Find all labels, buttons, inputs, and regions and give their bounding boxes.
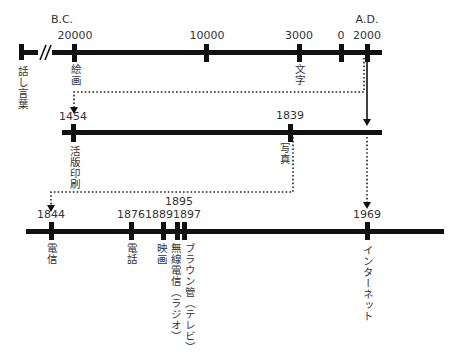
timeline-bar [62,130,382,135]
arrow-down-icon [363,119,371,126]
year-label: 0 [338,30,345,42]
year-label: 1895 [165,196,193,208]
event-label-printing-press: 活版印刷 [69,146,80,190]
tick-1454 [71,124,76,142]
tick-3000 [297,44,302,62]
tick-speech [19,44,24,60]
tick-1844 [49,222,54,240]
tick-10000 [204,44,209,62]
event-label-speech: 話し言葉 [17,66,28,110]
event-label-photography: 写真 [279,143,290,165]
event-label-telegraph: 電信 [46,243,57,265]
year-label: 3000 [285,30,313,42]
tick-20000 [72,44,77,62]
tick-1889 [161,222,166,240]
event-label-radio: 無線電信（ラジオ） [170,243,181,342]
year-label: 1969 [353,209,381,221]
event-label-television: ブラウン管（テレビ） [184,243,195,353]
tick-2000 [365,44,370,62]
year-label: 1839 [276,110,304,122]
tick-1839 [288,124,293,142]
tick-1897 [182,222,187,240]
tick-1876 [129,222,134,240]
tick-1895 [175,222,180,240]
event-label-internet: インターネット [362,245,373,322]
event-label-telephone: 電話 [126,243,137,265]
year-label-combined: 18891897 [145,209,201,221]
tick-1969 [365,222,370,240]
event-label-painting: 絵画 [70,64,81,86]
event-label-film: 映画 [156,243,167,265]
year-label: 20000 [58,30,93,42]
timeline-bar [26,229,444,234]
event-label-writing: 文字 [294,64,305,86]
year-label: 1876 [117,209,145,221]
year-label: 10000 [190,30,225,42]
dotted-connector-1 [74,58,364,108]
year-label: 1454 [59,111,87,123]
year-label: 2000 [353,30,381,42]
era-label-ad: A.D. [356,14,379,26]
tick-0 [339,44,344,62]
timeline-bar [52,50,382,55]
year-label: 1844 [37,209,65,221]
era-label-bc: B.C. [51,14,73,26]
